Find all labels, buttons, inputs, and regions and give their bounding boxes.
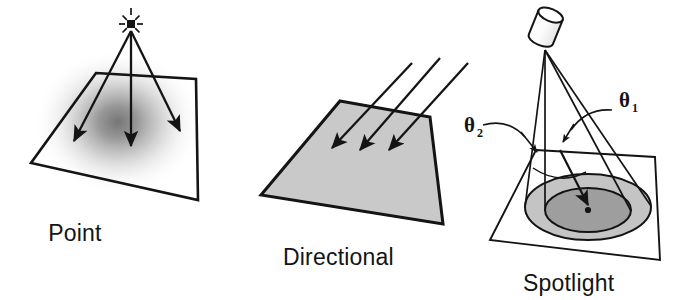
figure-canvas: Point Directional [0,0,684,300]
theta-1-subscript: 1 [632,101,638,115]
theta-2-subscript: 2 [477,126,483,140]
caption-spotlight: Spotlight [523,270,615,296]
theta-1-symbol: θ [619,88,630,112]
caption-directional: Directional [283,244,394,270]
caption-point: Point [48,220,102,246]
lighting-types-figure: Point Directional [0,0,684,300]
theta-2-symbol: θ [464,113,475,137]
point-light-falloff-blob [32,48,204,196]
spotlight-center-point [585,207,591,213]
